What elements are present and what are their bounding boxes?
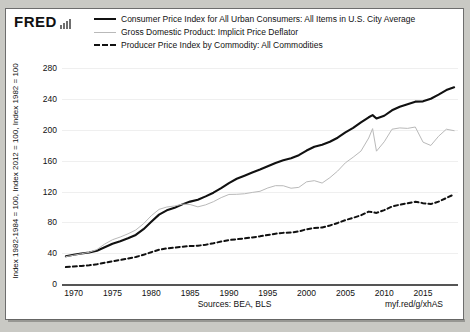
legend-label-cpi: Consumer Price Index for All Urban Consu…	[121, 13, 415, 25]
y-tick-label: 120	[43, 187, 57, 197]
chart-header: FRED Consumer Price Index for All Urban …	[6, 9, 463, 51]
legend-swatch-cpi	[94, 13, 116, 25]
x-tick-label: 2015	[414, 288, 433, 298]
y-axis-title-text: Index 1982-1984 = 100, Index 2012 = 100,…	[11, 63, 20, 279]
x-tick-label: 1970	[64, 288, 83, 298]
legend-item-ppi[interactable]: Producer Price Index by Commodity: All C…	[94, 39, 415, 51]
legend-label-ppi: Producer Price Index by Commodity: All C…	[121, 39, 323, 51]
x-tick-label: 1990	[219, 288, 238, 298]
fred-chart-card: FRED Consumer Price Index for All Urban …	[5, 8, 464, 320]
x-tick-label: 1980	[142, 288, 161, 298]
x-tick-label: 2005	[336, 288, 355, 298]
chart-footer: Sources: BEA, BLS myf.red/g/xhAS	[6, 299, 463, 319]
permalink-text[interactable]: myf.red/g/xhAS	[385, 299, 443, 309]
screenshot-root: FRED Consumer Price Index for All Urban …	[0, 0, 470, 332]
y-tick-label: 160	[43, 156, 57, 166]
legend-label-gdp-deflator: Gross Domestic Product: Implicit Price D…	[121, 26, 298, 38]
chart-series-layer	[62, 53, 458, 284]
fred-logo-text: FRED	[14, 14, 57, 29]
legend-swatch-ppi	[94, 39, 116, 51]
bar-chart-icon	[60, 19, 72, 29]
legend-item-gdp-deflator[interactable]: Gross Domestic Product: Implicit Price D…	[94, 26, 415, 38]
series-line-0	[66, 87, 454, 256]
y-axis-title: Index 1982-1984 = 100, Index 2012 = 100,…	[8, 51, 22, 291]
plot-area: 04080120160200240280 1970197519801985199…	[62, 53, 458, 284]
x-axis-line	[62, 284, 458, 286]
x-tick-label: 2010	[375, 288, 394, 298]
y-tick-label: 240	[43, 94, 57, 104]
y-tick-label: 280	[43, 63, 57, 73]
legend-swatch-gdp-deflator	[94, 26, 116, 38]
chart-legend: Consumer Price Index for All Urban Consu…	[94, 13, 415, 52]
x-tick-label: 1985	[181, 288, 200, 298]
y-tick-label: 80	[48, 217, 57, 227]
x-tick-label: 1995	[258, 288, 277, 298]
fred-logo: FRED	[14, 14, 72, 29]
x-tick-label: 1975	[103, 288, 122, 298]
y-tick-label: 0	[52, 279, 57, 289]
y-tick-label: 200	[43, 125, 57, 135]
x-tick-label: 2000	[297, 288, 316, 298]
y-tick-label: 40	[48, 248, 57, 258]
legend-item-cpi[interactable]: Consumer Price Index for All Urban Consu…	[94, 13, 415, 25]
series-line-2	[66, 194, 454, 267]
